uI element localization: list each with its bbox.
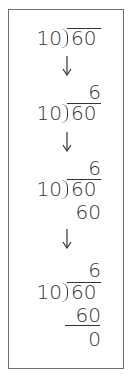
down-arrow-icon bbox=[61, 56, 73, 76]
dividend: 60 bbox=[71, 179, 96, 199]
divisor: 10 bbox=[36, 28, 62, 48]
down-arrow-icon bbox=[61, 229, 73, 249]
remainder: 0 bbox=[71, 329, 101, 349]
quotient: 6 bbox=[71, 82, 101, 102]
dividend: 60 bbox=[71, 282, 96, 302]
divisor: 10 bbox=[36, 282, 62, 302]
product: 60 bbox=[71, 305, 101, 325]
down-arrow-icon bbox=[61, 132, 73, 152]
divisor: 10 bbox=[36, 179, 62, 199]
divisor: 10 bbox=[36, 103, 62, 123]
dividend: 60 bbox=[71, 28, 96, 48]
quotient: 6 bbox=[71, 158, 101, 178]
quotient: 6 bbox=[71, 260, 101, 280]
product: 60 bbox=[71, 202, 101, 222]
subtraction-line bbox=[65, 325, 100, 326]
dividend: 60 bbox=[71, 103, 96, 123]
